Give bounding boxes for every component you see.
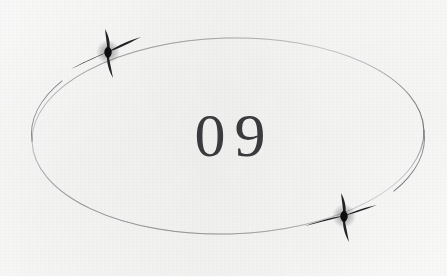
page-number: 09 xyxy=(0,102,447,168)
star-bottom-right xyxy=(305,193,377,242)
page-ornament-canvas: 09 xyxy=(0,0,447,276)
